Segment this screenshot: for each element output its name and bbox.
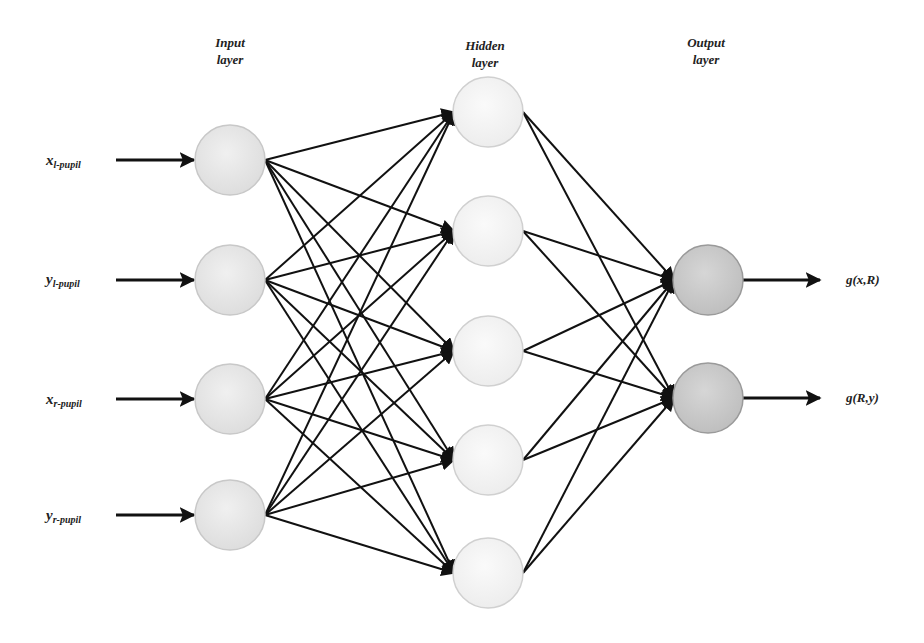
label-subscript: l-pupil bbox=[53, 278, 80, 289]
edge-input-1-to-hidden-4 bbox=[265, 280, 454, 573]
hidden-node-1 bbox=[453, 77, 523, 147]
edge-input-3-to-hidden-3 bbox=[265, 460, 454, 515]
input-layer-title-line1: Input bbox=[180, 34, 280, 51]
hidden-layer-title: Hidden layer bbox=[435, 37, 535, 71]
label-subscript: r-pupil bbox=[54, 398, 82, 409]
label-subscript: r-pupil bbox=[53, 514, 81, 525]
edge-input-3-to-hidden-4 bbox=[265, 515, 454, 573]
neural-network-diagram bbox=[0, 0, 924, 643]
hidden-layer-title-line1: Hidden bbox=[435, 37, 535, 54]
input-node-4 bbox=[195, 480, 265, 550]
edge-input-2-to-hidden-3 bbox=[265, 399, 454, 460]
hidden-layer-title-line2: layer bbox=[435, 54, 535, 71]
output-layer-title: Output layer bbox=[656, 34, 756, 68]
label-var: x bbox=[46, 152, 54, 168]
edge-hidden-2-to-output-0 bbox=[523, 280, 674, 351]
edge-input-0-to-hidden-4 bbox=[265, 160, 454, 573]
edge-input-0-to-hidden-3 bbox=[265, 160, 454, 460]
label-var: x bbox=[46, 391, 54, 407]
input-label-y-r-pupil: yr-pupil bbox=[46, 507, 81, 525]
input-label-y-l-pupil: yl-pupil bbox=[46, 271, 80, 289]
hidden-node-3 bbox=[453, 316, 523, 386]
edge-hidden-4-to-output-1 bbox=[523, 398, 674, 573]
edge-hidden-2-to-output-1 bbox=[523, 351, 674, 398]
edge-hidden-4-to-output-0 bbox=[523, 280, 674, 573]
label-var: y bbox=[46, 271, 53, 287]
input-node-1 bbox=[195, 125, 265, 195]
output-layer-title-line2: layer bbox=[656, 51, 756, 68]
input-node-2 bbox=[195, 245, 265, 315]
input-node-3 bbox=[195, 364, 265, 434]
output-node-2 bbox=[673, 363, 743, 433]
label-subscript: l-pupil bbox=[54, 159, 81, 170]
hidden-node-5 bbox=[453, 538, 523, 608]
hidden-node-4 bbox=[453, 425, 523, 495]
edge-hidden-3-to-output-0 bbox=[523, 280, 674, 460]
edge-input-3-to-hidden-0 bbox=[265, 112, 454, 515]
input-label-x-r-pupil: xr-pupil bbox=[46, 391, 82, 409]
hidden-node-2 bbox=[453, 196, 523, 266]
edge-hidden-3-to-output-1 bbox=[523, 398, 674, 460]
output-label-g-x-r: g(x,R) bbox=[846, 272, 880, 288]
output-node-1 bbox=[673, 245, 743, 315]
input-layer-title: Input layer bbox=[180, 34, 280, 68]
output-label-g-r-y: g(R,y) bbox=[846, 390, 879, 406]
input-layer-title-line2: layer bbox=[180, 51, 280, 68]
input-label-x-l-pupil: xl-pupil bbox=[46, 152, 81, 170]
label-var: y bbox=[46, 507, 53, 523]
output-layer-title-line1: Output bbox=[656, 34, 756, 51]
